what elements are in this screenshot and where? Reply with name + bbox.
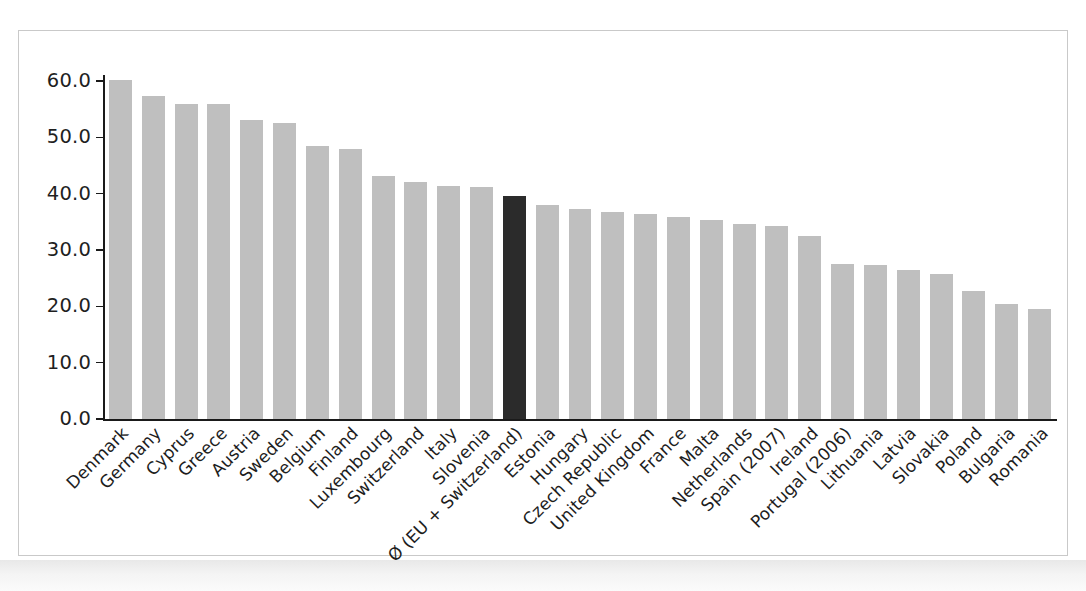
y-axis-tick <box>96 249 104 251</box>
y-axis-tick-label: 50.0 <box>21 125 91 148</box>
bar <box>273 123 296 419</box>
bar <box>569 209 592 419</box>
bar <box>339 149 362 419</box>
bar <box>897 270 920 419</box>
y-axis-tick <box>96 418 104 420</box>
bar <box>667 217 690 419</box>
y-axis-tick-label: 30.0 <box>21 238 91 261</box>
bar <box>437 186 460 419</box>
bar <box>765 226 788 419</box>
bar <box>1028 309 1051 419</box>
bar <box>503 196 526 419</box>
bar <box>536 205 559 419</box>
bar <box>700 220 723 419</box>
scan-edge-shadow <box>0 560 1086 591</box>
y-axis-tick <box>96 193 104 195</box>
bar <box>207 104 230 419</box>
bar-chart: 0.010.020.030.040.050.060.0 DenmarkGerma… <box>19 31 1069 557</box>
bar <box>930 274 953 419</box>
bar <box>798 236 821 419</box>
y-axis-tick-label: 20.0 <box>21 294 91 317</box>
bar <box>109 80 132 419</box>
bar <box>634 214 657 419</box>
bar <box>470 187 493 419</box>
x-axis-line <box>103 419 1057 421</box>
bar <box>372 176 395 419</box>
y-axis-tick <box>96 137 104 139</box>
y-axis-tick <box>96 362 104 364</box>
figure-frame: 0.010.020.030.040.050.060.0 DenmarkGerma… <box>18 30 1068 556</box>
bar <box>864 265 887 419</box>
bar <box>962 291 985 419</box>
y-axis-tick-label: 60.0 <box>21 69 91 92</box>
x-axis-category-labels: DenmarkGermanyCyprusGreeceAustriaSwedenB… <box>104 423 1056 553</box>
y-axis-tick-label: 0.0 <box>21 407 91 430</box>
bar <box>404 182 427 419</box>
bar <box>306 146 329 419</box>
y-axis-tick-label: 10.0 <box>21 351 91 374</box>
scanned-page: 0.010.020.030.040.050.060.0 DenmarkGerma… <box>0 0 1086 591</box>
bar <box>831 264 854 419</box>
bar <box>142 96 165 419</box>
y-axis-tick <box>96 80 104 82</box>
bar <box>733 224 756 419</box>
bar-series <box>104 81 1056 419</box>
bar <box>175 104 198 419</box>
bar <box>240 120 263 419</box>
bar <box>601 212 624 419</box>
y-axis-tick-label: 40.0 <box>21 182 91 205</box>
y-axis-tick <box>96 306 104 308</box>
bar <box>995 304 1018 419</box>
